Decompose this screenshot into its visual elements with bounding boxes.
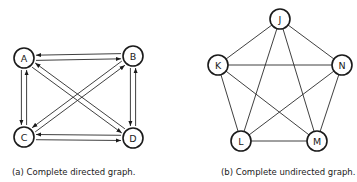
edge-k-m xyxy=(226,71,309,135)
node-label: A xyxy=(21,53,28,64)
edge-j-k xyxy=(226,25,272,59)
edge-a-b xyxy=(36,59,121,61)
edge-j-l xyxy=(244,29,277,132)
edge-b-a xyxy=(36,54,121,56)
node-label: D xyxy=(129,133,136,144)
edge-n-l xyxy=(249,71,334,135)
node-c: C xyxy=(14,127,34,147)
edge-j-m xyxy=(283,29,314,132)
node-label: B xyxy=(130,51,137,62)
undirected-graph: JKNLM xyxy=(208,9,352,151)
graph-figure: ABCD JKNLM xyxy=(0,0,357,182)
node-m: M xyxy=(307,131,327,151)
edge-c-b xyxy=(35,65,125,132)
node-label: K xyxy=(215,60,222,71)
node-b: B xyxy=(123,46,143,66)
edge-n-m xyxy=(320,74,339,131)
node-d: D xyxy=(123,128,143,148)
node-label: J xyxy=(278,14,282,25)
edge-k-l xyxy=(221,75,238,132)
caption-directed-graph: (a) Complete directed graph. xyxy=(12,167,135,177)
node-label: M xyxy=(313,136,321,147)
node-label: L xyxy=(238,136,244,147)
node-label: C xyxy=(21,132,28,143)
node-a: A xyxy=(14,48,34,68)
node-l: L xyxy=(231,131,251,151)
edge-d-a xyxy=(35,63,125,129)
node-n: N xyxy=(332,55,352,75)
caption-undirected-graph: (b) Complete undirected graph. xyxy=(221,167,355,177)
node-label: N xyxy=(338,60,345,71)
edge-j-n xyxy=(288,25,334,59)
node-k: K xyxy=(208,55,228,75)
edge-c-d xyxy=(36,140,121,141)
edge-d-c xyxy=(36,135,121,136)
node-j: J xyxy=(270,9,290,29)
directed-graph: ABCD xyxy=(14,46,143,148)
